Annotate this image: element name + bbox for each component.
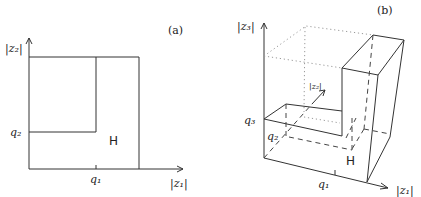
z-tick-label: q₃: [244, 114, 255, 127]
tall-box-hidden-back: [364, 129, 390, 134]
x-axis-label: |z₁|: [170, 177, 188, 191]
x-tick-label: q₁: [90, 173, 101, 186]
tall-box-right-edge: [367, 40, 404, 182]
tall-box-hidden-diagonal: [352, 129, 364, 149]
region-label: H: [346, 154, 355, 168]
dotted-guide-vertical: [304, 27, 305, 112]
y-tick-label: q₂: [10, 126, 21, 139]
depth-tick-label: q₂: [267, 130, 278, 143]
outer-box: [29, 57, 139, 169]
z3-axis-label: |z₃|: [237, 20, 255, 34]
panel-b: (b) |z₃| |z₂| q₃ q₂ H q₁ |z₁|: [237, 4, 414, 197]
dotted-guide-front: [264, 56, 342, 68]
figure-canvas: (a) |z₂| q₂ H q₁ |z₁|: [0, 0, 421, 197]
panel-b-tag: (b): [377, 4, 393, 17]
panel-a: (a) |z₂| q₂ H q₁ |z₁|: [5, 24, 188, 191]
dotted-guide-inner: [304, 117, 340, 123]
low-box-hidden-bottom: [289, 137, 352, 150]
z2-axis: [312, 90, 325, 104]
inner-box: [29, 57, 96, 132]
z1-axis-label: |z₁|: [396, 184, 414, 197]
z2-axis-label: |z₂|: [309, 82, 322, 91]
tall-box-top: [342, 35, 404, 111]
tall-box-hidden-vertical: [364, 35, 373, 129]
low-box-hidden-corner: [346, 118, 356, 138]
tall-box-front-edge: [367, 75, 378, 182]
y-axis-label: |z₂|: [5, 42, 23, 56]
region-label: H: [109, 134, 118, 148]
low-box-top-back: [264, 104, 342, 119]
dotted-guide-top: [264, 26, 373, 56]
panel-a-tag: (a): [168, 24, 183, 37]
x-tick-label: q₁: [318, 178, 329, 191]
